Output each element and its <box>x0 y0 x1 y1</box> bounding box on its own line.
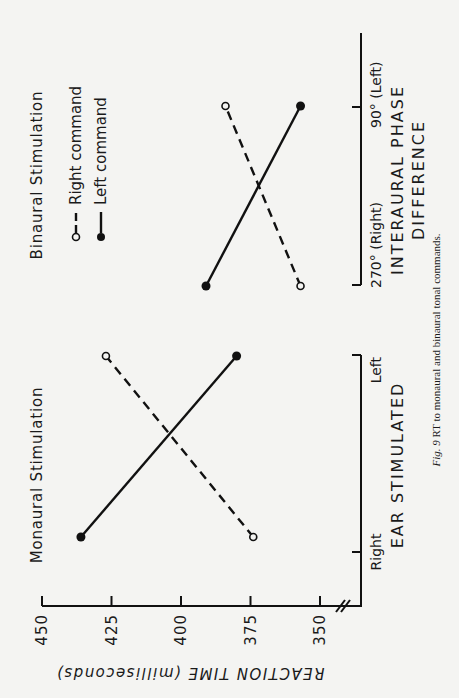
caption-text: RT to monaural and binaural tonal comman… <box>430 233 442 437</box>
filled-circle-icon <box>97 233 105 241</box>
right-command-line <box>106 356 253 537</box>
y-tick-label: 375 <box>242 614 260 646</box>
binaural-title: Binaural Stimulation <box>28 91 46 260</box>
y-axis-label: REACTION TIME (milliseconds) <box>55 664 324 682</box>
filled-circle-marker <box>202 282 211 291</box>
legend-right-command: Right command <box>67 86 85 241</box>
caption-fig-label: Fig. 9 <box>430 438 442 468</box>
monaural-title: Monaural Stimulation <box>28 387 46 563</box>
open-circle-icon <box>73 234 80 241</box>
open-circle-marker <box>102 353 109 360</box>
tick-label-270: 270° (Right) <box>368 202 384 288</box>
left-command-line <box>206 106 301 286</box>
binaural-x-label-line1: INTERAURAL PHASE <box>388 85 407 275</box>
legend-left-command: Left command <box>92 97 110 241</box>
legend: Right command Left command <box>67 86 110 241</box>
binaural-x-axis: 270° (Right) 90° (Left) INTERAURAL PHASE… <box>352 33 428 288</box>
y-tick-label: 400 <box>172 614 190 646</box>
legend-left-label: Left command <box>92 97 110 205</box>
open-circle-marker <box>222 103 229 110</box>
left-command-line <box>81 356 237 537</box>
monaural-x-axis: Right Left EAR STIMULATED <box>352 355 407 607</box>
figure-canvas: 350375400425450 REACTION TIME (milliseco… <box>0 0 459 698</box>
y-tick-label: 425 <box>103 614 121 646</box>
y-tick-label: 450 <box>33 614 51 646</box>
tick-label-left: Left <box>368 356 384 383</box>
right-command-line <box>225 106 300 286</box>
tick-label-90: 90° (Left) <box>368 61 384 128</box>
y-ticks: 350375400425450 <box>33 596 329 646</box>
binaural-x-label-line2: DIFFERENCE <box>409 120 428 240</box>
filled-circle-marker <box>232 352 241 361</box>
monaural-x-label: EAR STIMULATED <box>388 382 407 549</box>
open-circle-marker <box>250 534 257 541</box>
filled-circle-marker <box>296 102 305 111</box>
filled-circle-marker <box>76 533 85 542</box>
y-tick-label: 350 <box>311 614 329 646</box>
tick-label-right: Right <box>368 533 384 570</box>
y-axis: 350375400425450 REACTION TIME (milliseco… <box>33 596 361 682</box>
data-series <box>76 102 305 542</box>
legend-right-label: Right command <box>67 86 85 205</box>
figure-caption: Fig. 9 RT to monaural and binaural tonal… <box>430 233 442 467</box>
open-circle-marker <box>297 283 304 290</box>
